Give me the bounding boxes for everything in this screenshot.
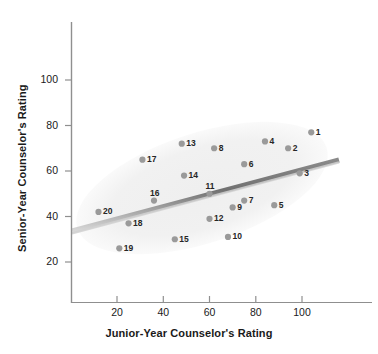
- y-tick-label-20: 20: [32, 255, 58, 267]
- x-tick-label-40: 40: [150, 306, 176, 318]
- data-point-marker: [225, 234, 231, 240]
- data-point-label: 7: [249, 195, 254, 205]
- data-point-label: 14: [189, 170, 198, 180]
- data-point-marker: [206, 216, 212, 222]
- data-point-label: 2: [293, 143, 298, 153]
- data-point-label: 4: [270, 136, 275, 146]
- data-point-label: 10: [233, 231, 242, 241]
- data-point-marker: [308, 129, 314, 135]
- x-tick-label-80: 80: [243, 306, 269, 318]
- x-tick-label-60: 60: [197, 306, 223, 318]
- data-point-marker: [241, 161, 247, 167]
- data-point-marker: [151, 197, 157, 203]
- y-tick-label-60: 60: [32, 164, 58, 176]
- data-point-label: 8: [219, 143, 224, 153]
- data-point-marker: [125, 220, 131, 226]
- data-point-marker: [262, 138, 268, 144]
- data-point-label: 9: [237, 202, 242, 212]
- x-tick-label-100: 100: [289, 306, 315, 318]
- data-point-marker: [211, 145, 217, 151]
- data-point-marker: [285, 145, 291, 151]
- data-point-label: 18: [133, 218, 142, 228]
- data-point-marker: [179, 141, 185, 147]
- data-point-label: 17: [147, 154, 156, 164]
- data-point-marker: [172, 236, 178, 242]
- data-point-label: 3: [304, 168, 309, 178]
- data-point-label: 11: [206, 181, 215, 191]
- data-point-marker: [230, 204, 236, 210]
- x-tick-label-20: 20: [104, 306, 130, 318]
- data-point-label: 1: [316, 127, 321, 137]
- y-tick-label-40: 40: [32, 210, 58, 222]
- data-point-label: 5: [279, 200, 284, 210]
- data-point-label: 19: [124, 243, 133, 253]
- data-point-label: 15: [179, 234, 188, 244]
- data-point-marker: [139, 157, 145, 163]
- data-point-label: 16: [150, 188, 159, 198]
- data-point-marker: [241, 197, 247, 203]
- data-point-label: 6: [249, 159, 254, 169]
- data-point-marker: [95, 209, 101, 215]
- data-point-label: 13: [186, 138, 195, 148]
- data-point-marker: [181, 172, 187, 178]
- data-point-marker: [271, 202, 277, 208]
- data-point-label: 20: [103, 206, 112, 216]
- scatter-plot-figure: 100 80 60 40 20 20 40 60 80 100 Junior-Y…: [0, 0, 378, 354]
- x-axis-title: Junior-Year Counselor's Rating: [0, 327, 378, 339]
- y-tick-label-80: 80: [32, 119, 58, 131]
- y-axis-title: Senior-Year Counselor's Rating: [16, 84, 28, 252]
- data-point-marker: [206, 191, 212, 197]
- data-point-label: 12: [214, 213, 223, 223]
- concentration-ellipse: [60, 95, 343, 281]
- y-tick-label-100: 100: [32, 73, 58, 85]
- data-point-marker: [297, 170, 303, 176]
- data-point-marker: [116, 245, 122, 251]
